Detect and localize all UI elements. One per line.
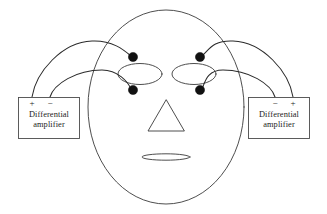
left-amplifier-minus-terminal: − — [45, 99, 55, 108]
left-amplifier-plus-terminal: + — [27, 99, 37, 108]
electrode-left-lower — [128, 85, 137, 94]
right-amplifier-minus-terminal: − — [270, 99, 280, 108]
right-amplifier-label-line2: amplifier — [248, 120, 310, 130]
right-amplifier-plus-terminal: + — [288, 99, 298, 108]
electrode-right-lower — [195, 85, 204, 94]
eog-electrode-diagram: + − − + Differential amplifier Different… — [0, 0, 327, 214]
nose-triangle — [148, 100, 184, 131]
left-amplifier-label-line2: amplifier — [18, 120, 80, 130]
left-eye — [118, 64, 162, 85]
left-amplifier-label: Differential amplifier — [18, 110, 80, 130]
right-amplifier-label-line1: Differential — [248, 110, 310, 120]
wire-left-plus-to-left-upper-electrode — [32, 41, 131, 97]
right-eye — [172, 64, 216, 85]
left-amplifier-label-line1: Differential — [18, 110, 80, 120]
electrode-right-upper — [195, 52, 204, 61]
wire-right-plus-to-right-upper-electrode — [202, 41, 293, 97]
wire-right-minus-to-right-lower-electrode — [202, 70, 275, 97]
mouth — [142, 154, 190, 160]
face-outline — [88, 10, 244, 204]
electrode-left-upper — [128, 52, 137, 61]
right-amplifier-label: Differential amplifier — [248, 110, 310, 130]
